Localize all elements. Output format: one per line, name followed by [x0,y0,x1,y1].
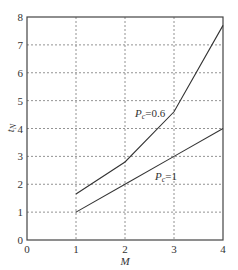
y-tick-label: 6 [18,67,24,79]
y-tick-label: 7 [18,39,24,51]
x-tick-label: 1 [73,243,79,255]
grid-lines [27,17,223,240]
x-tick-label: 4 [220,243,226,255]
y-axis-label: tN [4,123,18,132]
x-axis-label: M [119,255,130,267]
y-tick-label: 4 [18,123,24,135]
series-label-pc06: Pc=0.6 [134,107,166,121]
y-tick-label: 0 [18,234,24,246]
series-line [76,129,223,213]
y-tick-label: 2 [18,178,24,190]
x-tick-label: 0 [24,243,30,255]
x-tick-label: 3 [171,243,177,255]
y-tick-label: 3 [18,150,24,162]
axis-ticks: 01234012345678 [18,11,227,255]
x-tick-label: 2 [122,243,128,255]
series-label-pc1: Pc=1 [154,170,177,184]
y-tick-label: 1 [18,206,24,218]
y-tick-label: 5 [18,95,24,107]
line-chart: 01234012345678 M tN Pc=0.6 Pc=1 [0,0,238,270]
y-tick-label: 8 [18,11,24,23]
